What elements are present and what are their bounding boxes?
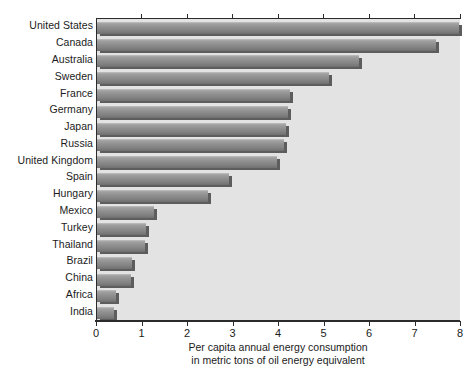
bar	[97, 39, 439, 50]
bar	[97, 55, 362, 66]
x-axis: 012345678	[96, 320, 460, 321]
x-tick-label: 5	[312, 327, 336, 339]
category-label: France	[0, 88, 93, 99]
x-tick-top	[460, 14, 461, 19]
category-label: Thailand	[0, 239, 93, 250]
category-label: Germany	[0, 104, 93, 115]
x-tick	[324, 321, 325, 326]
category-label: Australia	[0, 54, 93, 65]
x-tick	[460, 321, 461, 326]
bar-chart: United StatesCanadaAustraliaSwedenFrance…	[0, 0, 473, 372]
bar-fill	[97, 173, 229, 185]
x-tick-top	[414, 14, 415, 19]
bar-fill	[97, 223, 146, 235]
category-label: Turkey	[0, 222, 93, 233]
x-tick-label: 1	[130, 327, 154, 339]
x-tick	[415, 321, 416, 326]
x-tick-top	[232, 14, 233, 19]
bar	[97, 274, 134, 285]
x-axis-title: Per capita annual energy consumption in …	[96, 341, 460, 366]
x-tick-top	[187, 14, 188, 19]
x-tick	[187, 321, 188, 326]
bar-fill	[97, 39, 436, 51]
bar	[97, 307, 117, 318]
x-axis-title-line-2: in metric tons of oil energy equivalent	[96, 354, 460, 367]
bar	[97, 206, 157, 217]
bar-fill	[97, 274, 131, 286]
bar-fill	[97, 290, 116, 302]
bar-fill	[97, 156, 277, 168]
category-label: Canada	[0, 37, 93, 48]
x-tick	[233, 321, 234, 326]
bar	[97, 89, 293, 100]
x-tick-top	[141, 14, 142, 19]
bar-fill	[97, 89, 290, 101]
category-label: Mexico	[0, 205, 93, 216]
bar-fill	[97, 139, 284, 151]
bar	[97, 22, 462, 33]
x-tick-label: 8	[448, 327, 472, 339]
category-label: Spain	[0, 171, 93, 182]
bar	[97, 173, 232, 184]
x-tick	[369, 321, 370, 326]
bar-fill	[97, 55, 359, 67]
bars-container	[97, 19, 460, 320]
bar	[97, 240, 148, 251]
bar-fill	[97, 106, 288, 118]
bar-fill	[97, 190, 208, 202]
x-tick	[96, 321, 97, 326]
bar	[97, 123, 289, 134]
category-label: Japan	[0, 121, 93, 132]
category-label: United Kingdom	[0, 155, 93, 166]
category-axis-labels: United StatesCanadaAustraliaSwedenFrance…	[0, 18, 93, 320]
bar-fill	[97, 240, 145, 252]
x-axis-title-line-1: Per capita annual energy consumption	[96, 341, 460, 354]
x-tick	[142, 321, 143, 326]
x-tick-label: 7	[403, 327, 427, 339]
bar	[97, 72, 332, 83]
x-tick-label: 6	[357, 327, 381, 339]
bar-fill	[97, 307, 114, 319]
x-tick-top	[323, 14, 324, 19]
x-tick-label: 4	[266, 327, 290, 339]
bar-fill	[97, 123, 286, 135]
bar	[97, 156, 280, 167]
category-label: Russia	[0, 138, 93, 149]
category-label: Brazil	[0, 255, 93, 266]
bar	[97, 139, 287, 150]
bar	[97, 257, 135, 268]
bar	[97, 190, 211, 201]
category-label: Hungary	[0, 188, 93, 199]
x-tick-label: 3	[221, 327, 245, 339]
category-label: China	[0, 272, 93, 283]
x-tick-label: 2	[175, 327, 199, 339]
bar-fill	[97, 72, 329, 84]
x-tick-label: 0	[84, 327, 108, 339]
bar-fill	[97, 22, 459, 34]
x-tick-top	[278, 14, 279, 19]
bar	[97, 223, 149, 234]
category-label: United States	[0, 20, 93, 31]
plot-area	[96, 18, 460, 320]
x-tick	[278, 321, 279, 326]
bar-fill	[97, 206, 154, 218]
bar-fill	[97, 257, 132, 269]
x-tick-top	[369, 14, 370, 19]
category-label: Africa	[0, 289, 93, 300]
bar	[97, 290, 119, 301]
bar	[97, 106, 291, 117]
category-label: India	[0, 306, 93, 317]
category-label: Sweden	[0, 71, 93, 82]
